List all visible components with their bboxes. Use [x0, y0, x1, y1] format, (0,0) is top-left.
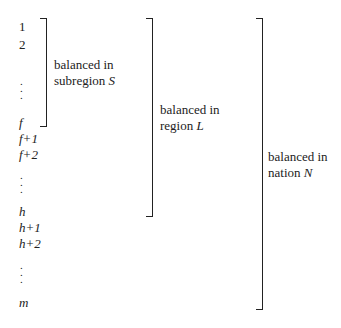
item-m: m — [19, 296, 28, 310]
item-f: f — [19, 116, 23, 130]
ellipsis-vertical-3: ... — [20, 262, 26, 283]
item-f-plus-1: f+1 — [19, 132, 38, 146]
ellipsis-vertical-2: ... — [20, 172, 26, 193]
item-h-plus-2: h+2 — [19, 237, 41, 251]
label-region: balanced in region L — [160, 102, 220, 134]
item-h-plus-1: h+1 — [19, 221, 41, 235]
bracket-subregion — [40, 18, 47, 127]
item-f-plus-2: f+2 — [19, 148, 38, 162]
item-h: h — [19, 205, 26, 219]
item-2: 2 — [19, 38, 26, 52]
ellipsis-vertical-1: ... — [20, 78, 26, 99]
bracket-nation — [256, 18, 263, 310]
label-subregion: balanced in subregion S — [54, 57, 115, 89]
bracket-region — [146, 18, 153, 217]
item-1: 1 — [19, 20, 26, 34]
label-nation: balanced in nation N — [268, 149, 328, 181]
